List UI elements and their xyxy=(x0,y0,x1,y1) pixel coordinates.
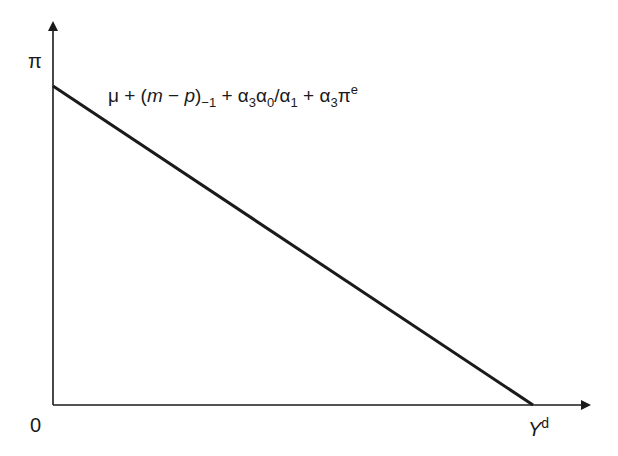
cl-alpha3b: α xyxy=(319,85,330,106)
cl-sup-e: e xyxy=(351,82,358,97)
cl-pi: π xyxy=(338,85,351,106)
cl-sub1: 1 xyxy=(291,95,298,110)
cl-plus3: + xyxy=(298,85,320,106)
diagram-canvas: π 0 Yd μ + (m − p)−1 + α3α0/α1 + α3πe xyxy=(0,0,618,456)
cl-alpha3a: α xyxy=(238,85,249,106)
cl-sub3a: 3 xyxy=(249,95,256,110)
cl-sub0: 0 xyxy=(267,95,274,110)
cl-alpha0: α xyxy=(256,85,267,106)
cl-sub3b: 3 xyxy=(330,95,337,110)
y-axis-label: π xyxy=(28,50,42,72)
cl-plus1: + ( xyxy=(119,85,148,106)
demand-line xyxy=(53,86,533,405)
curve-label: μ + (m − p)−1 + α3α0/α1 + α3πe xyxy=(108,82,358,110)
cl-mu: μ xyxy=(108,85,119,106)
x-axis-label: Yd xyxy=(528,415,549,440)
origin-label: 0 xyxy=(30,414,41,436)
cl-plus2: + xyxy=(216,85,238,106)
cl-m: m xyxy=(147,85,163,106)
cl-minus: − xyxy=(163,85,185,106)
cl-alpha1: α xyxy=(280,85,291,106)
cl-p: p xyxy=(183,85,195,106)
cl-sub-minus1: −1 xyxy=(201,95,216,110)
x-axis-label-sup: d xyxy=(541,415,549,431)
